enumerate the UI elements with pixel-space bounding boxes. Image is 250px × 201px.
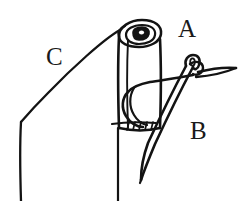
label-a: A xyxy=(178,16,196,41)
thread-loop-inner xyxy=(130,88,147,125)
needle-point xyxy=(140,180,141,183)
rolled-hem-diagram xyxy=(0,0,250,201)
fabric-edge-vertical xyxy=(20,122,21,201)
roll-spiral-group xyxy=(118,20,161,47)
roll-left-wall xyxy=(118,36,119,128)
fabric-roll-group xyxy=(112,20,161,130)
label-b: B xyxy=(190,118,207,143)
fabric-edge-group xyxy=(20,30,120,201)
label-c: C xyxy=(46,44,63,69)
fabric-edge-diagonal xyxy=(21,30,120,122)
needle-shaft-upper xyxy=(141,67,193,180)
figure-canvas: A B C xyxy=(0,0,250,201)
roll-coil-tail xyxy=(118,26,125,36)
roll-coil-highlight xyxy=(139,31,144,35)
roll-inner-crease xyxy=(127,40,128,128)
